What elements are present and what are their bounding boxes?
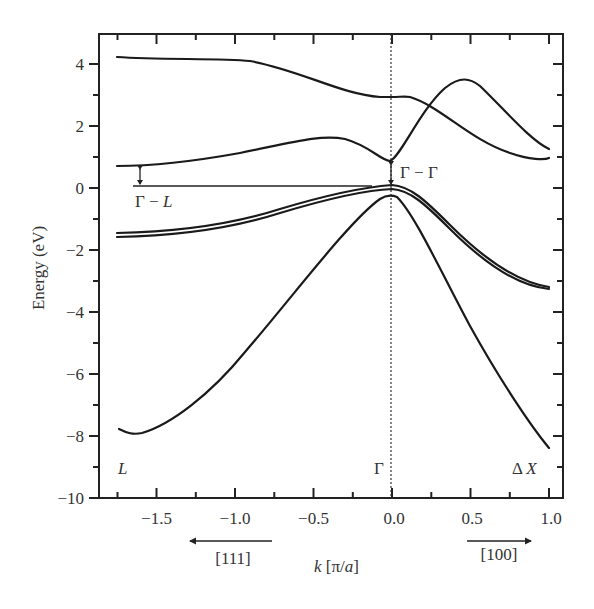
y-tick-label: −10 (57, 489, 84, 508)
y-tick-label: −4 (66, 303, 85, 322)
x-tick-label: −0.5 (298, 509, 329, 528)
y-tick-label: 4 (76, 55, 85, 74)
point-label-L: L (117, 459, 127, 478)
y-tick-label: 2 (76, 117, 85, 136)
band-curves (117, 57, 549, 448)
y-ticks (89, 64, 563, 498)
y-tick-label: −8 (66, 427, 84, 446)
x-tick-label: −1.0 (220, 509, 251, 528)
direction-111-label: [111] (215, 549, 251, 568)
band-conduction-lower (117, 80, 549, 167)
x-tick-label: −1.5 (141, 509, 172, 528)
y-axis-label: Energy (eV) (29, 226, 48, 310)
point-label-gamma: Γ (374, 459, 384, 478)
y-tick-label: −2 (66, 241, 84, 260)
gamma-gamma-label: Γ − Γ (400, 163, 438, 182)
band-heavy-hole-2 (117, 189, 549, 289)
x-ticks (118, 34, 550, 498)
gamma-l-label: Γ − L (135, 192, 172, 211)
direction-100-label: [100] (481, 545, 518, 564)
band-heavy-hole-1 (117, 185, 549, 287)
x-tick-label: 0.0 (383, 509, 404, 528)
y-tick-label: 0 (76, 179, 85, 198)
band-upper-1 (117, 57, 549, 159)
x-axis-label: k [π/a] (314, 557, 359, 576)
y-tick-labels: 4 2 0 −2 −4 −6 −8 −10 (57, 55, 84, 508)
x-tick-labels: −1.5 −1.0 −0.5 0.0 0.5 1.0 (141, 509, 562, 528)
x-tick-label: 1.0 (540, 509, 561, 528)
y-tick-label: −6 (66, 365, 84, 384)
x-tick-label: 0.5 (461, 509, 482, 528)
band-structure-chart: 4 2 0 −2 −4 −6 −8 −10 −1.5 −1.0 −0.5 0.0… (0, 0, 594, 609)
point-label-delta-x: Δ X (512, 459, 537, 478)
